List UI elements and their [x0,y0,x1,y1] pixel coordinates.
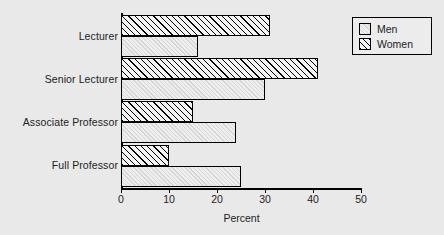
bar-lecturer-men [121,36,198,57]
legend-entry-men: Men [359,22,397,36]
x-tick-label-0: 0 [118,193,124,205]
category-label-associate-professor: Associate Professor [0,116,118,128]
x-axis-title: Percent [121,212,362,224]
legend-label-women: Women [377,38,413,50]
category-label-full-professor: Full Professor [0,159,118,171]
bar-associate-professor-men [121,122,236,143]
category-label-lecturer: Lecturer [0,30,118,42]
bar-associate-professor-women [121,101,193,122]
x-tick-label-20: 20 [211,193,223,205]
legend-label-men: Men [377,23,397,35]
x-tick-label-40: 40 [307,193,319,205]
bar-full-professor-men [121,166,241,187]
legend-entry-women: Women [359,37,413,51]
legend: Men Women [352,17,432,55]
bar-full-professor-women [121,145,169,166]
x-tick-label-50: 50 [355,193,367,205]
x-tick-label-10: 10 [163,193,175,205]
x-axis-line [121,188,362,190]
bar-senior-lecturer-women [121,58,318,79]
solid-swatch-icon [359,23,371,35]
bar-lecturer-women [121,15,270,36]
hatch-swatch-icon [359,38,371,50]
x-tick-label-30: 30 [259,193,271,205]
category-axis-labels: Lecturer Senior Lecturer Associate Profe… [0,0,118,235]
bar-senior-lecturer-men [121,79,265,100]
bar-chart: Lecturer Senior Lecturer Associate Profe… [0,0,444,235]
category-label-senior-lecturer: Senior Lecturer [0,73,118,85]
